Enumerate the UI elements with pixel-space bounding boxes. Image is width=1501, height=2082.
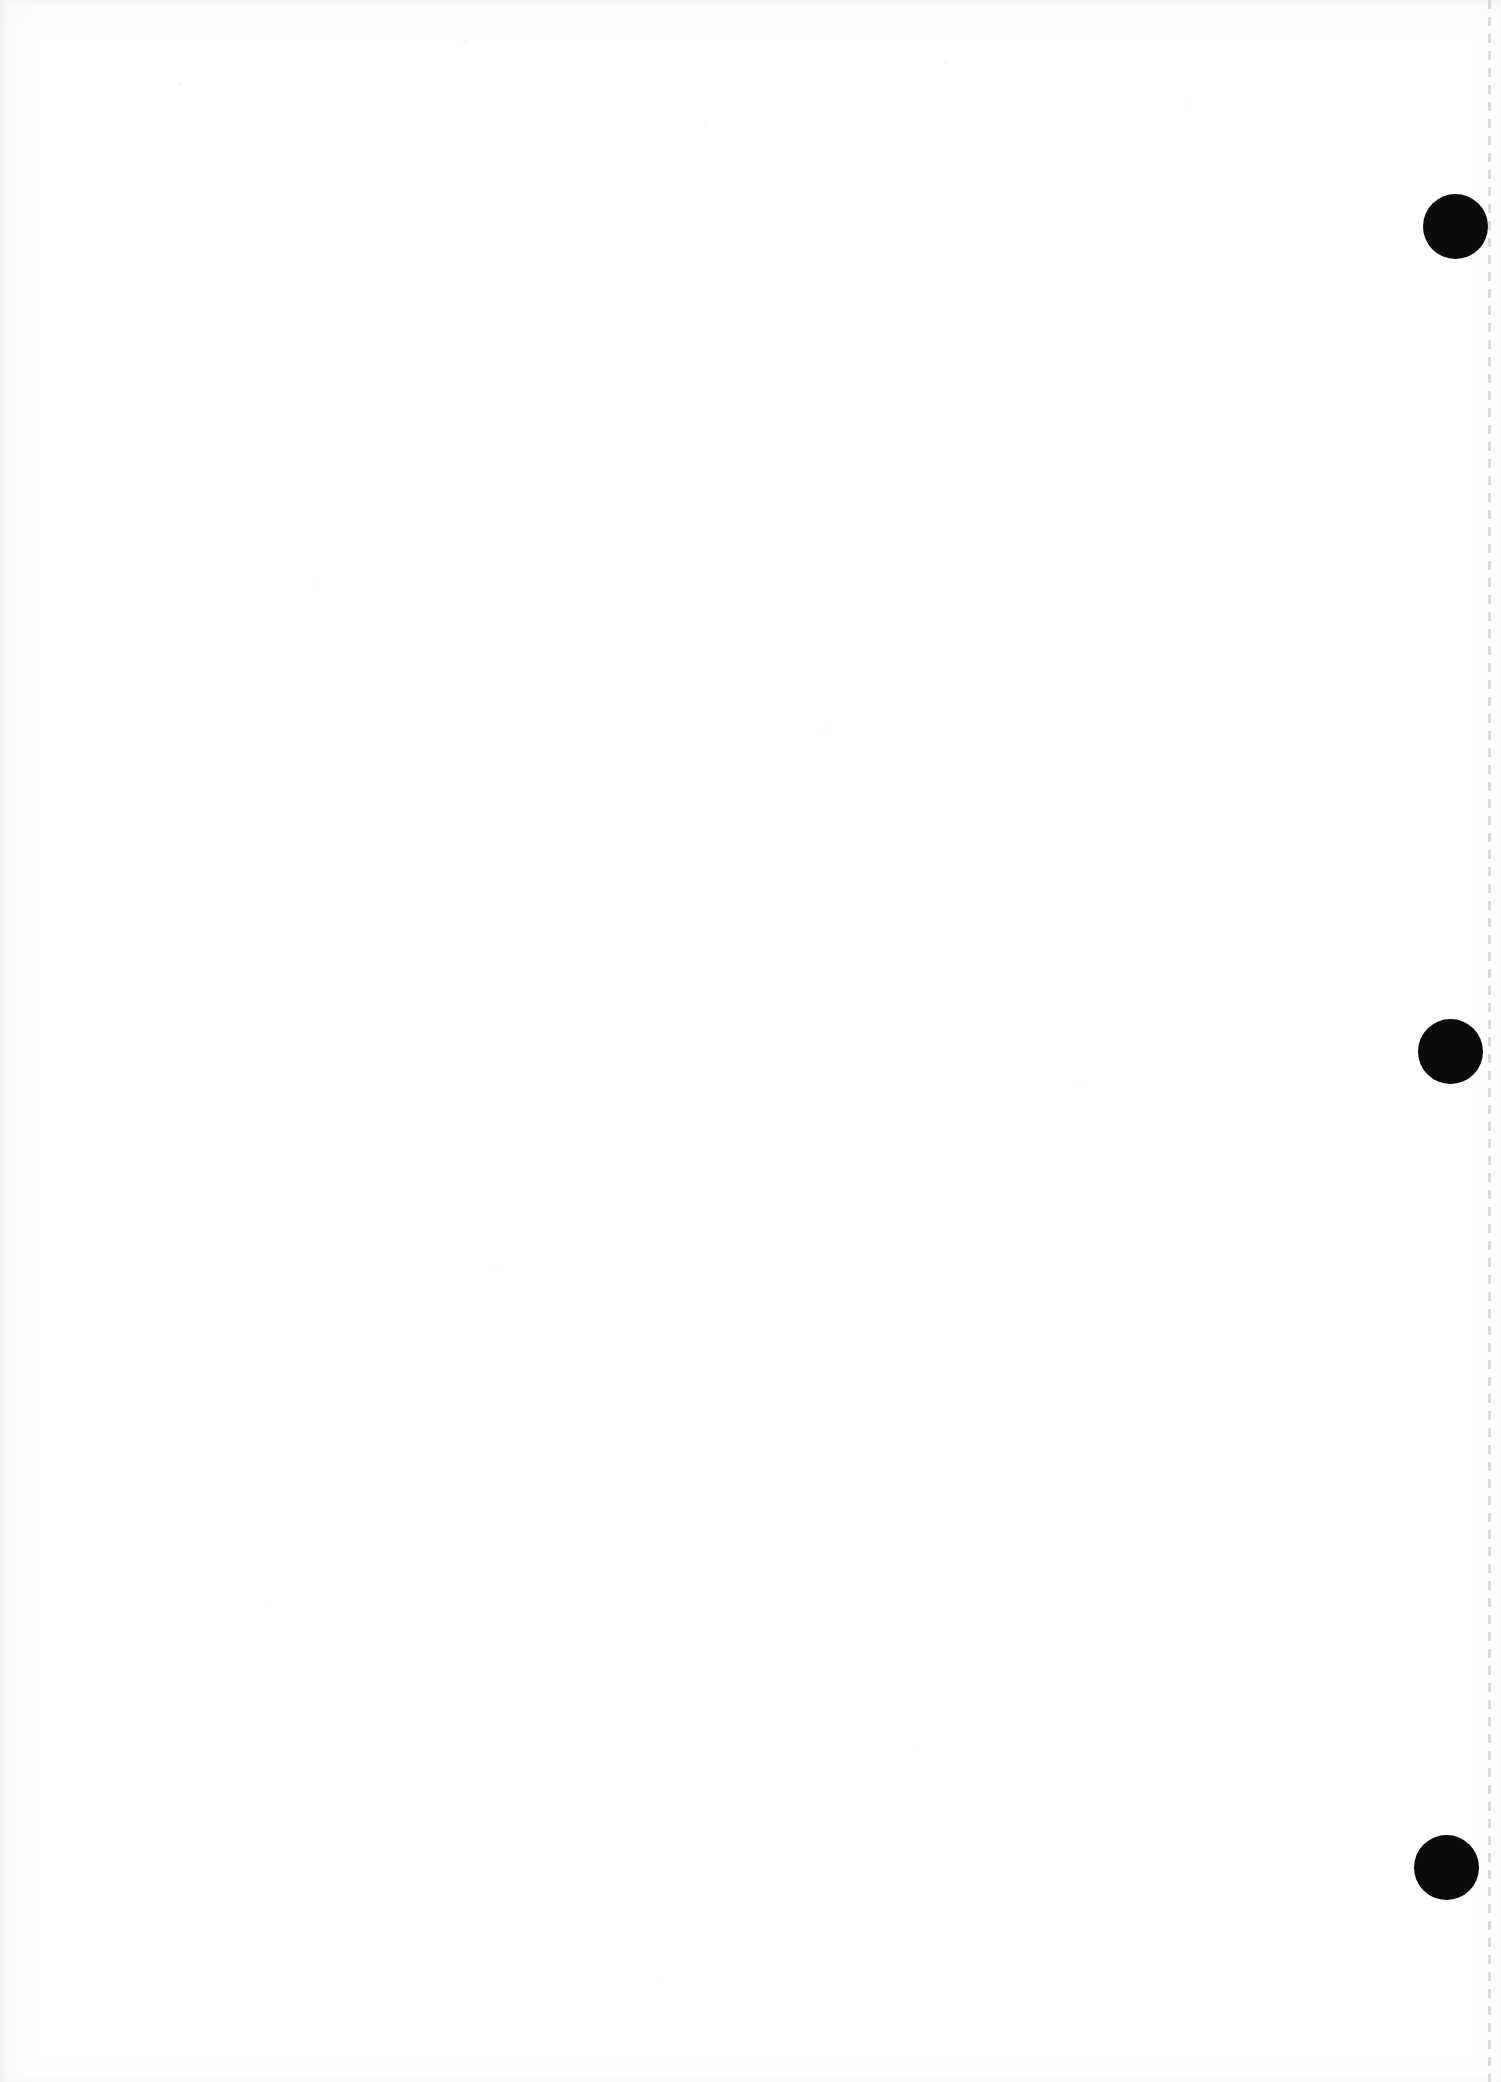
- punch-mark-3: [1414, 1835, 1479, 1900]
- page-body-text: [0, 0, 1, 1]
- scanned-page: [0, 0, 1501, 2082]
- punch-mark-2: [1418, 1019, 1483, 1084]
- paper-surface: [0, 0, 1501, 2082]
- right-margin-dashed-rule: [1488, 0, 1491, 2082]
- scan-noise-texture: [0, 0, 1501, 2082]
- punch-mark-1: [1423, 194, 1488, 259]
- page-label: [0, 0, 1, 1]
